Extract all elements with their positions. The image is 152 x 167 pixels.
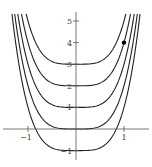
y-tick-label: 1 <box>67 103 72 112</box>
points-group <box>122 40 126 44</box>
chart: 54321−1−11 <box>0 0 152 167</box>
x-tick-label: −1 <box>20 133 32 142</box>
y-tick-label: 5 <box>67 17 72 26</box>
y-tick-label: 3 <box>67 60 72 69</box>
y-tick-label: 4 <box>67 39 72 48</box>
x-tick-label: 1 <box>121 133 126 142</box>
highlight-point <box>122 40 126 44</box>
y-tick-label: 2 <box>67 82 72 91</box>
y-tick-label: −1 <box>60 147 72 156</box>
